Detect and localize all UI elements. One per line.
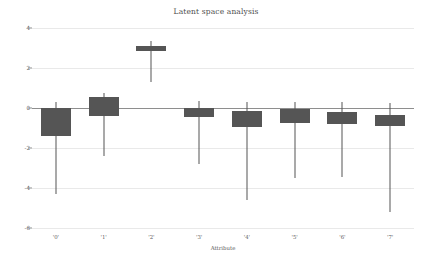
- x-axis-tick-label: '0': [53, 234, 59, 240]
- gridline: [32, 228, 414, 229]
- box-body: [375, 115, 405, 126]
- candle-3: [184, 28, 214, 228]
- x-axis-tick-label: '2': [148, 234, 154, 240]
- candle-7: [375, 28, 405, 228]
- box-body: [136, 46, 166, 51]
- box-body: [232, 111, 262, 127]
- candle-5: [280, 28, 310, 228]
- x-axis-tick-label: '1': [100, 234, 106, 240]
- x-axis-title: Attribute: [32, 245, 414, 251]
- chart-figure: Latent space analysis 420-2-4-6 Attribut…: [0, 0, 432, 261]
- y-axis-tick-label: 4: [4, 25, 30, 31]
- y-axis-tick-label: -2: [4, 145, 30, 151]
- y-axis-tick-label: 0: [4, 105, 30, 111]
- y-axis-tick-label: -6: [4, 225, 30, 231]
- candle-4: [232, 28, 262, 228]
- box-body: [327, 112, 357, 124]
- y-axis-tick-label: 2: [4, 65, 30, 71]
- chart-title: Latent space analysis: [0, 7, 432, 16]
- x-axis-tick-label: '6': [339, 234, 345, 240]
- x-axis-tick-label: '5': [291, 234, 297, 240]
- x-axis-tick-label: '3': [196, 234, 202, 240]
- x-axis-tick-label: '4': [244, 234, 250, 240]
- candle-2: [136, 28, 166, 228]
- plot-area: [32, 28, 414, 228]
- box-body: [184, 108, 214, 117]
- candle-6: [327, 28, 357, 228]
- box-body: [89, 97, 119, 116]
- box-body: [280, 109, 310, 123]
- y-axis-tick-label: -4: [4, 185, 30, 191]
- box-body: [41, 108, 71, 136]
- candle-0: [41, 28, 71, 228]
- candle-1: [89, 28, 119, 228]
- x-axis-tick-label: '7': [387, 234, 393, 240]
